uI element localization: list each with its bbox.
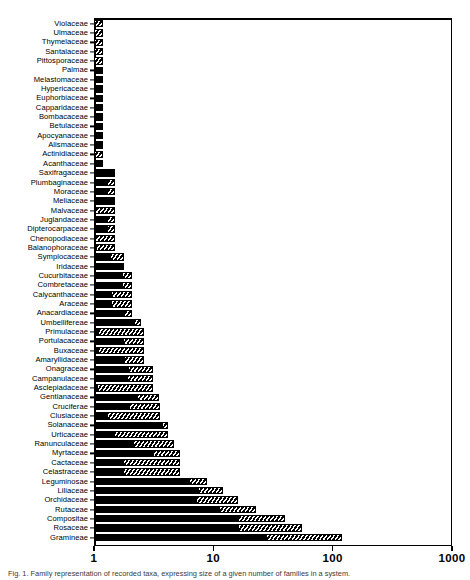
bar-hatch-segment — [199, 488, 222, 493]
bar-hatch-segment — [154, 451, 179, 456]
bar-row: Clusiaceae — [94, 411, 452, 420]
bar-row: Balanophoraceae — [94, 243, 452, 252]
bar-hatch-segment — [108, 189, 114, 194]
bar-row: Dipterocarpaceae — [94, 225, 452, 234]
bar — [94, 524, 302, 531]
bar-hatch-segment — [123, 283, 131, 288]
bar — [94, 216, 115, 223]
bar-row: Acanthaceae — [94, 159, 452, 168]
bar-hatch-segment — [95, 152, 102, 157]
bar — [94, 319, 141, 326]
bar-hatch-segment — [267, 535, 341, 540]
bar-row: Moraceae — [94, 187, 452, 196]
bar-row: Hypericaceae — [94, 84, 452, 93]
y-axis-category-label: Myrtaceae — [52, 450, 88, 458]
bar-row: Saxifragaceae — [94, 169, 452, 178]
bar-row: Melastomaceae — [94, 75, 452, 84]
bar — [94, 67, 103, 74]
bar-row: Rutaceae — [94, 505, 452, 514]
bar-row: Alismaceae — [94, 140, 452, 149]
bar-row: Cactaceae — [94, 458, 452, 467]
bar-hatch-segment — [123, 273, 131, 278]
y-axis-category-label: Araceae — [59, 300, 88, 308]
y-axis-category-label: Cucurbitaceae — [38, 272, 88, 280]
bar-row: Rosaceae — [94, 524, 452, 533]
bar — [94, 113, 103, 120]
bar — [94, 338, 144, 345]
y-axis-category-label: Compositae — [47, 515, 88, 523]
bar-row: Buxaceae — [94, 346, 452, 355]
bar — [94, 132, 103, 139]
bar-hatch-segment — [125, 357, 142, 362]
bar — [94, 57, 103, 64]
x-axis-tick-label: 1000 — [438, 552, 465, 564]
bar — [94, 179, 115, 186]
bar-row: Leguminosae — [94, 477, 452, 486]
y-axis-category-label: Chenopodiaceae — [30, 235, 88, 243]
bar-row: Orchidaceae — [94, 496, 452, 505]
bar-row: Anacardiaceae — [94, 309, 452, 318]
bar-hatch-segment — [128, 376, 152, 381]
bar — [94, 235, 115, 242]
bar-hatch-segment — [99, 348, 143, 353]
y-axis-category-label: Umbellifereae — [41, 319, 89, 327]
bar — [94, 422, 168, 429]
bar-hatch-segment — [98, 385, 152, 390]
bar-hatch-segment — [130, 404, 159, 409]
bar — [94, 347, 144, 354]
bar-hatch-segment — [220, 507, 255, 512]
bar-row: Plumbaginaceae — [94, 178, 452, 187]
bar-hatch-segment — [239, 525, 301, 530]
bar-hatch-segment — [124, 469, 180, 474]
bar-row: Myrtaceae — [94, 449, 452, 458]
bar-row: Juglandaceae — [94, 215, 452, 224]
y-axis-category-label: Asclepiadaceae — [34, 384, 88, 392]
bar-row: Bombacaceae — [94, 112, 452, 121]
figure-caption: Fig. 1. Family representation of recorde… — [8, 570, 466, 578]
y-axis-category-label: Amaryllidaceae — [35, 356, 88, 364]
y-axis-category-label: Rosaceae — [53, 524, 88, 532]
bar-hatch-segment — [99, 329, 143, 334]
bar-row: Campanulaceae — [94, 374, 452, 383]
bar-row: Araceae — [94, 299, 452, 308]
bar — [94, 244, 115, 251]
y-axis-category-label: Onagraceae — [46, 366, 88, 374]
bar — [94, 76, 103, 83]
y-axis-category-label: Actinidiaceae — [42, 151, 88, 159]
y-axis-category-label: Urticaceae — [51, 431, 88, 439]
bar-hatch-segment — [239, 516, 284, 521]
bar — [94, 394, 159, 401]
y-axis-category-label: Juglandaceae — [40, 216, 88, 224]
bar — [94, 253, 124, 260]
x-axis-tick-label: 10 — [207, 552, 221, 564]
bar-hatch-segment — [108, 180, 114, 185]
y-axis-category-label: Moraceae — [54, 188, 88, 196]
bar-row: Umbellifereae — [94, 318, 452, 327]
bar-row: Combretaceae — [94, 281, 452, 290]
bar — [94, 366, 153, 373]
y-axis-category-label: Gentianaceae — [40, 394, 88, 402]
bar — [94, 160, 103, 167]
bar-hatch-segment — [124, 460, 180, 465]
bar-hatch-segment — [190, 479, 205, 484]
bar — [94, 310, 132, 317]
bar-hatch-segment — [111, 254, 124, 259]
bar-row: Liliaceae — [94, 486, 452, 495]
y-axis-category-label: Saxifragaceae — [39, 169, 88, 177]
y-axis-category-label: Celastraceae — [43, 468, 88, 476]
bar-hatch-segment — [112, 301, 131, 306]
bar — [94, 282, 132, 289]
y-axis-category-label: Alismaceae — [48, 141, 88, 149]
x-axis-tick — [332, 546, 333, 551]
bar — [94, 20, 103, 27]
bar — [94, 431, 168, 438]
bar — [94, 39, 103, 46]
bar-hatch-segment — [95, 58, 102, 63]
bar — [94, 197, 115, 204]
bar-row: Ranunculaceae — [94, 439, 452, 448]
y-axis-category-label: Bombacaceae — [39, 113, 88, 121]
bar-row: Amaryllidaceae — [94, 355, 452, 364]
bar-row: Compositae — [94, 514, 452, 523]
bar-hatch-segment — [129, 367, 152, 372]
bar-row: Gentianaceae — [94, 393, 452, 402]
